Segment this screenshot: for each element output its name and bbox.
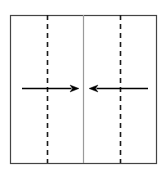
diagram-container <box>0 0 165 172</box>
schematic-diagram <box>0 0 165 172</box>
diagram-background <box>0 0 165 172</box>
